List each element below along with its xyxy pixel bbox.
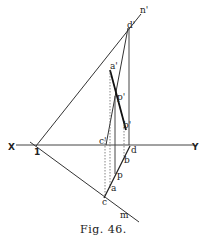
label-c-prime: c'	[99, 136, 107, 146]
label-d: d	[131, 145, 137, 155]
figure-caption: Fig. 46.	[80, 223, 127, 236]
label-b: b	[124, 155, 130, 165]
label-a-prime: a'	[110, 61, 118, 71]
label-p: p	[117, 170, 123, 180]
label-c: c	[102, 197, 107, 207]
label-p-prime: p'	[117, 92, 125, 102]
label-n-prime: n'	[140, 5, 148, 15]
label-a: a	[111, 183, 117, 193]
label-d-prime: d'	[127, 20, 135, 30]
descriptive-geometry-diagram: X Y 1 n' d' a' p' b' c' d b p a c m Fig.…	[0, 0, 206, 238]
label-1: 1	[34, 147, 40, 157]
label-y: Y	[191, 142, 199, 152]
label-x: X	[8, 142, 15, 152]
label-b-prime: b'	[123, 120, 131, 130]
label-m: m	[120, 210, 129, 220]
